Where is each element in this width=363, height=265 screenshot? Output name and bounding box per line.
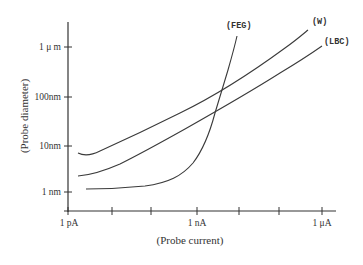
label-w: (W) <box>312 17 327 27</box>
curve-lbc <box>78 46 322 176</box>
x-tick-label-1uA: 1 μA <box>312 218 331 228</box>
x-tick-label-1nA: 1 nA <box>188 218 207 228</box>
x-axis-title: (Probe current) <box>157 234 224 247</box>
y-tick-label-1um: 1 μ m <box>39 42 62 52</box>
y-tick-label-100nm: 100nm <box>35 92 62 102</box>
y-tick-label-10nm: 10nm <box>39 141 61 151</box>
y-tick-label-1nm: 1 nm <box>42 187 62 197</box>
y-axis-title: (Probe diameter) <box>18 79 31 154</box>
probe-diameter-vs-current-chart: 1 μ m 100nm 10nm 1 nm 1 pA 1 nA 1 μA (Pr… <box>0 0 363 265</box>
curve-w <box>78 30 308 155</box>
x-tick-labels: 1 pA 1 nA 1 μA <box>60 218 332 228</box>
label-feg: (FEG) <box>226 21 252 31</box>
label-lbc: (LBC) <box>324 37 350 47</box>
y-tick-labels: 1 μ m 100nm 10nm 1 nm <box>35 42 62 197</box>
x-tick-label-1pA: 1 pA <box>60 218 79 228</box>
